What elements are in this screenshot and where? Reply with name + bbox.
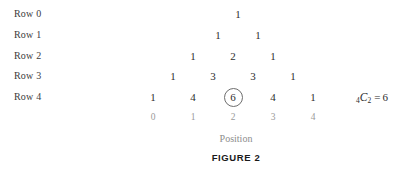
formula-result: 6 bbox=[382, 91, 388, 103]
triangle-cell-r2-c1: 2 bbox=[223, 50, 243, 62]
triangle-cell-r0-c0: 1 bbox=[228, 8, 248, 20]
row-label-2: Row 2 bbox=[14, 50, 41, 61]
triangle-cell-r4-c4: 1 bbox=[303, 91, 323, 103]
triangle-cell-r2-c2: 1 bbox=[263, 50, 283, 62]
figure-caption: FIGURE 2 bbox=[212, 152, 261, 163]
row-label-1: Row 1 bbox=[14, 29, 41, 40]
triangle-cell-r3-c1: 3 bbox=[203, 70, 223, 82]
formula-post-subscript: 2 bbox=[367, 96, 371, 105]
position-label-1: 1 bbox=[183, 112, 203, 122]
triangle-cell-r1-c0: 1 bbox=[208, 29, 228, 41]
triangle-cell-r4-c1: 4 bbox=[183, 91, 203, 103]
axis-title-position: Position bbox=[220, 133, 253, 144]
formula-equals: = bbox=[374, 91, 380, 103]
row-label-0: Row 0 bbox=[14, 8, 41, 19]
position-label-3: 3 bbox=[263, 112, 283, 122]
position-label-2: 2 bbox=[223, 112, 243, 122]
triangle-cell-r4-c3: 4 bbox=[263, 91, 283, 103]
triangle-cell-r4-c0: 1 bbox=[143, 91, 163, 103]
highlight-circle bbox=[224, 88, 243, 107]
triangle-cell-r3-c2: 3 bbox=[243, 70, 263, 82]
position-label-4: 4 bbox=[303, 112, 323, 122]
position-label-0: 0 bbox=[143, 112, 163, 122]
triangle-cell-r3-c3: 1 bbox=[283, 70, 303, 82]
triangle-cell-r3-c0: 1 bbox=[163, 70, 183, 82]
pascals-triangle-figure: Row 0 Row 1 Row 2 Row 3 Row 4 1 1 1 1 2 … bbox=[0, 0, 414, 173]
row-label-3: Row 3 bbox=[14, 70, 41, 81]
row-label-4: Row 4 bbox=[14, 91, 41, 102]
triangle-cell-r2-c0: 1 bbox=[183, 50, 203, 62]
triangle-cell-r1-c1: 1 bbox=[248, 29, 268, 41]
combination-formula: 4C2=6 bbox=[356, 91, 388, 105]
